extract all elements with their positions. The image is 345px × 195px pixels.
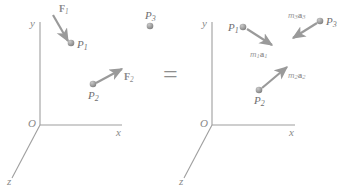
left-z-axis-label: z — [7, 176, 11, 187]
particle-label-P1-right-subscript: 1 — [235, 26, 239, 35]
force-label-F1-subscript: 1 — [65, 8, 69, 16]
particle-label-P1-right-symbol: P — [228, 21, 235, 33]
particle-label-P3-right-symbol: P — [326, 15, 333, 27]
particle-dot-P3-left — [147, 23, 154, 30]
particle-dot-P1-left — [68, 40, 75, 47]
left-x-axis-label: x — [116, 127, 121, 138]
left-axes — [12, 22, 122, 178]
right-axes — [184, 22, 295, 178]
force-vector-F1 — [53, 15, 68, 41]
inertia-label-m1a1-accel-subscript: 1 — [264, 52, 267, 59]
right-y-axis-label: y — [202, 18, 207, 29]
particle-label-P1-left-subscript: 1 — [84, 43, 88, 52]
inertia-vector-m1a1 — [247, 29, 272, 45]
inertia-label-m2a2-accel-subscript: 2 — [302, 73, 305, 80]
particle-dot-P3-right — [317, 18, 324, 25]
particle-dot-P2-right — [256, 87, 263, 94]
particle-label-P2-right-subscript: 2 — [261, 99, 265, 108]
right-x-axis-label: x — [289, 127, 294, 138]
right-origin-label: O — [200, 118, 208, 129]
particle-label-P2-left: P2 — [88, 90, 99, 103]
force-label-F2-subscript: 2 — [130, 76, 134, 84]
particle-label-P1-right: P1 — [228, 22, 239, 35]
force-label-F2: F2 — [124, 72, 134, 84]
inertia-vector-m3a3 — [293, 23, 317, 38]
left-origin-label: O — [28, 118, 36, 129]
figure-canvas — [0, 0, 345, 195]
particle-label-P2-right-symbol: P — [254, 94, 261, 106]
particle-label-P2-left-subscript: 2 — [95, 94, 99, 103]
particle-label-P3-left: P3 — [145, 10, 156, 23]
left-y-axis-label: y — [30, 18, 35, 29]
inertia-label-m1a1: m1a1 — [250, 50, 267, 60]
left-z-axis — [12, 125, 40, 178]
particle-label-P1-left: P1 — [77, 39, 88, 52]
physics-figure: = y x z O F1 F2 P1 P2 P3 y x z O P1 P2 P… — [0, 0, 345, 195]
particle-dot-P1-right — [240, 24, 247, 31]
inertia-vector-m2a2 — [262, 67, 287, 88]
force-vector-F2 — [96, 69, 122, 83]
inertia-label-m2a2: m2a2 — [288, 71, 305, 81]
particle-label-P3-left-symbol: P — [145, 9, 152, 21]
left-particles — [68, 23, 154, 88]
particle-label-P3-left-subscript: 3 — [152, 14, 156, 23]
force-label-F1: F1 — [59, 4, 69, 16]
equals-sign: = — [163, 62, 178, 88]
particle-label-P2-left-symbol: P — [88, 89, 95, 101]
right-z-axis — [184, 125, 212, 178]
particle-label-P1-left-symbol: P — [77, 38, 84, 50]
particle-label-P3-right: P3 — [326, 16, 337, 29]
particle-dot-P2-left — [90, 81, 97, 88]
particle-label-P3-right-subscript: 3 — [333, 20, 337, 29]
particle-label-P2-right: P2 — [254, 95, 265, 108]
right-z-axis-label: z — [179, 176, 183, 187]
inertia-label-m3a3: m3a3 — [288, 11, 305, 21]
inertia-label-m3a3-accel-subscript: 3 — [302, 13, 305, 20]
